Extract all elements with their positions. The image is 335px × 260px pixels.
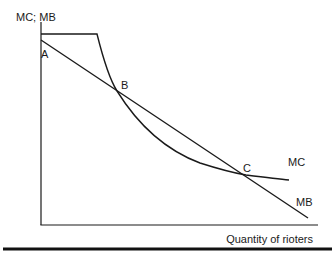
mc-curve [41,34,289,180]
point-b-label: B [121,79,128,91]
point-a-label: A [41,48,49,60]
mc-mb-diagram: MC; MB Quantity of rioters A B C MC MB [0,0,335,260]
x-axis-label: Quantity of rioters [226,233,313,245]
mb-label: MB [296,196,313,208]
y-axis-label: MC; MB [16,11,56,23]
point-c-label: C [243,162,251,174]
mc-label: MC [288,156,305,168]
mb-line [41,40,308,218]
